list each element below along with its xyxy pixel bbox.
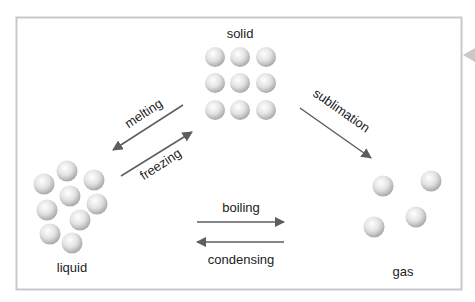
solid-label: solid bbox=[227, 26, 254, 41]
boiling-label: boiling bbox=[222, 200, 260, 215]
condensing-label: condensing bbox=[208, 252, 275, 267]
pointer-triangle-icon bbox=[463, 48, 475, 62]
liquid-label: liquid bbox=[57, 260, 87, 275]
gas-label: gas bbox=[393, 264, 414, 279]
states-of-matter-diagram: solid liquid bbox=[0, 0, 475, 302]
solid-particles bbox=[205, 47, 276, 120]
